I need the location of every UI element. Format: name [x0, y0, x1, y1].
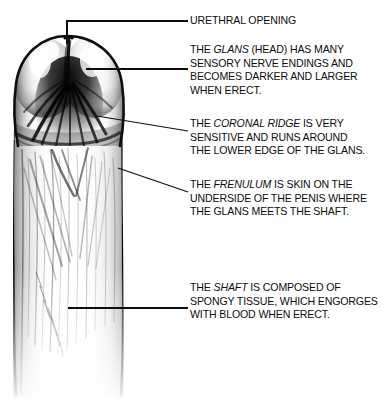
callout-text-run: (HEAD) HAS MANY: [249, 43, 344, 55]
callout-text-run: IS VERY: [300, 117, 343, 129]
callout-text-run: CORONAL RIDGE: [214, 117, 301, 129]
callout-text-run: THE GLANS MEETS THE SHAFT.: [190, 205, 349, 217]
callout-text-run: WITH BLOOD WHEN ERECT.: [190, 308, 330, 320]
callout-text-run: THE: [190, 178, 214, 190]
callout-text-run: IS COMPOSED OF: [248, 281, 341, 293]
callout-text-run: THE: [190, 43, 214, 55]
shaft-drawing: [13, 120, 124, 398]
callout-shaft: THE SHAFT IS COMPOSED OFSPONGY TISSUE, W…: [190, 281, 378, 322]
callout-text-run: FRENULUM: [214, 178, 272, 190]
callout-glans: THE GLANS (HEAD) HAS MANYSENSORY NERVE E…: [190, 43, 358, 97]
callout-text-run: THE: [190, 281, 214, 293]
callout-urethral-opening: URETHRAL OPENING: [190, 14, 296, 28]
callout-text-run: IS SKIN ON THE: [271, 178, 352, 190]
callout-text-run: SPONGY TISSUE, WHICH ENGORGES: [190, 295, 378, 307]
callout-text-run: UNDERSIDE OF THE PENIS WHERE: [190, 192, 367, 204]
callout-frenulum: THE FRENULUM IS SKIN ON THEUNDERSIDE OF …: [190, 178, 367, 219]
callout-text-run: THE: [190, 117, 214, 129]
callout-text-run: SENSITIVE AND RUNS AROUND: [190, 131, 348, 143]
callout-text-run: SENSORY NERVE ENDINGS AND: [190, 57, 353, 69]
callout-coronal-ridge: THE CORONAL RIDGE IS VERYSENSITIVE AND R…: [190, 117, 365, 158]
figure-page: URETHRAL OPENING THE GLANS (HEAD) HAS MA…: [0, 0, 383, 410]
callout-text-run: THE LOWER EDGE OF THE GLANS.: [190, 144, 365, 156]
callout-text-run: URETHRAL OPENING: [190, 14, 296, 26]
callout-text-run: SHAFT: [214, 281, 248, 293]
callout-text-run: GLANS: [214, 43, 249, 55]
callout-text-run: WHEN ERECT.: [190, 84, 261, 96]
callout-text-run: BECOMES DARKER AND LARGER: [190, 70, 358, 82]
